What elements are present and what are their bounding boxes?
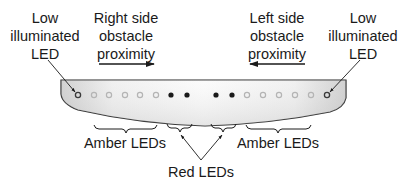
red-pointer-right xyxy=(201,135,222,160)
red-pointer-left xyxy=(181,135,201,160)
amber-leds-left-label: Amber LEDs xyxy=(80,134,170,152)
amber-right-brace xyxy=(246,125,311,133)
red-led xyxy=(229,92,234,97)
red-led xyxy=(168,92,173,97)
amber-leds-right-label: Amber LEDs xyxy=(233,134,323,152)
red-led xyxy=(184,92,189,97)
led-bar xyxy=(61,80,346,126)
led-display-diagram: Low illuminated LED Right side obstacle … xyxy=(0,0,410,188)
low-led-left-label: Low illuminated LED xyxy=(6,9,84,63)
left-side-proximity-label: Left side obstacle proximity xyxy=(237,9,317,63)
red-led xyxy=(213,92,218,97)
red-leds-label: Red LEDs xyxy=(161,163,241,181)
amber-left-brace xyxy=(94,125,157,133)
low-led-right-label: Low illuminated LED xyxy=(324,9,402,63)
right-side-proximity-label: Right side obstacle proximity xyxy=(86,9,166,63)
